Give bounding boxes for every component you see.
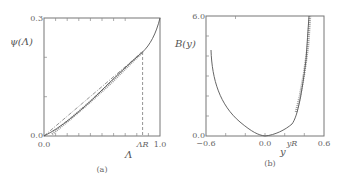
figure: 0.3 0.0 0.0 ΛR 1.0 ψ(Λ) Λ (a) 6.0 0.0 −0… [0, 0, 342, 177]
y-tick-0.0: 0.0 [30, 131, 43, 140]
ticks-b [206, 16, 304, 136]
x-tick-0.6: 0.6 [318, 139, 331, 148]
x-axis-label-b: y [279, 146, 286, 157]
x-tick-lambda-r: ΛR [136, 140, 149, 149]
panel-b: 6.0 0.0 −0.6 0.0 yR 0.6 B(y) y (b) [174, 12, 330, 168]
caption-b: (b) [264, 159, 275, 168]
y-axis-label-b: B(y) [174, 38, 196, 49]
y-tick-0.3: 0.3 [30, 14, 43, 23]
x-ticks-a [44, 18, 148, 136]
x-tick-0.0-b: 0.0 [259, 139, 272, 148]
x-tick-y-r: yR [286, 139, 298, 148]
y-tick-6.0: 6.0 [192, 12, 205, 21]
x-tick-minus-0.6: −0.6 [196, 139, 215, 148]
caption-a: (a) [96, 165, 107, 174]
plot-frame-b [206, 16, 324, 136]
panel-a: 0.3 0.0 0.0 ΛR 1.0 ψ(Λ) Λ (a) [10, 14, 166, 174]
y-axis-label-a: ψ(Λ) [10, 36, 33, 47]
x-tick-0.0: 0.0 [38, 140, 51, 149]
x-axis-label-a: Λ [124, 149, 132, 160]
series-solid-b [211, 16, 309, 136]
x-tick-1.0: 1.0 [154, 140, 167, 149]
